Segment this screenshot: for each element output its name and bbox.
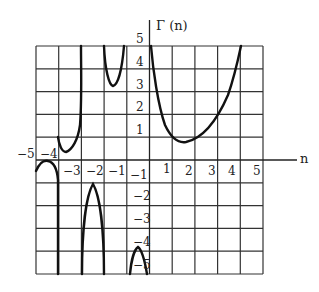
y-tick-4: 4 bbox=[136, 56, 144, 68]
x-tick-2: 2 bbox=[185, 165, 193, 177]
curve-neg-4-3 bbox=[58, 46, 81, 152]
y-tick-2: 2 bbox=[136, 101, 144, 113]
gamma-function-chart bbox=[0, 0, 319, 292]
y-tick-5: 5 bbox=[136, 33, 144, 45]
curve-positive bbox=[151, 46, 241, 142]
y-tick-1: 1 bbox=[136, 124, 144, 136]
curve-neg-2-1 bbox=[104, 46, 124, 86]
x-tick-1: 1 bbox=[163, 163, 171, 175]
y-axis-label: Γ (n) bbox=[156, 20, 188, 32]
x-tick-neg2: −2 bbox=[86, 165, 104, 177]
x-axis-label: n bbox=[300, 153, 308, 165]
y-tick-neg4: −4 bbox=[133, 236, 151, 248]
x-tick-5: 5 bbox=[253, 165, 261, 177]
x-tick-4: 4 bbox=[228, 165, 236, 177]
y-tick-neg5: −5 bbox=[133, 259, 151, 271]
x-tick-neg4: −4 bbox=[40, 148, 58, 160]
x-tick-neg5: −5 bbox=[17, 148, 35, 160]
y-tick-3: 3 bbox=[136, 79, 144, 91]
x-tick-neg3: −3 bbox=[63, 165, 81, 177]
y-tick-neg1: −1 bbox=[130, 169, 148, 181]
curve-neg-5-4 bbox=[36, 161, 58, 274]
axes bbox=[36, 20, 297, 274]
y-tick-neg2: −2 bbox=[133, 190, 151, 202]
curve-neg-3-2 bbox=[82, 184, 104, 274]
x-tick-neg1: −1 bbox=[108, 165, 126, 177]
x-tick-3: 3 bbox=[208, 165, 216, 177]
y-tick-neg3: −3 bbox=[133, 213, 151, 225]
